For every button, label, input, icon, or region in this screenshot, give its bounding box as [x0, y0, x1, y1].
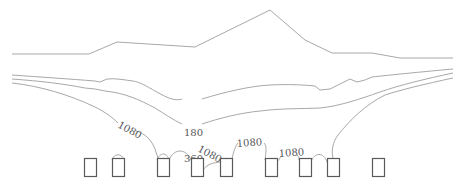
box-3: [158, 159, 170, 177]
contour-label-1080-a: 1080: [116, 119, 144, 141]
contour-diagram: 180 360 1080 1080 1080 1080: [0, 0, 459, 189]
contour-180-line: [12, 69, 453, 100]
contour-360-line: [12, 73, 453, 124]
contour-label-1080-d: 1080: [278, 146, 304, 159]
box-5: [221, 159, 233, 177]
box-4: [192, 159, 204, 177]
diagram-svg: 180 360 1080 1080 1080 1080: [0, 0, 459, 189]
box-1: [85, 159, 97, 177]
contour-label-1080-c: 1080: [236, 136, 262, 149]
box-7: [300, 159, 312, 177]
contour-1080-left-line: [12, 83, 118, 123]
box-8: [328, 159, 340, 177]
arc-box7-box8: [311, 155, 327, 163]
profile-line: [12, 10, 453, 58]
contour-label-180: 180: [184, 127, 203, 138]
contour-1080-right-line: [332, 78, 453, 158]
box-2: [113, 159, 125, 177]
box-9: [373, 159, 385, 177]
box-6: [266, 159, 278, 177]
